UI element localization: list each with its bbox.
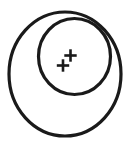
plus-vertical-bar xyxy=(62,59,65,71)
figure-canvas: Concentric offset circles with two plus … xyxy=(0,0,138,150)
line-drawing-svg xyxy=(0,0,138,150)
plus-vertical-bar xyxy=(69,49,72,61)
